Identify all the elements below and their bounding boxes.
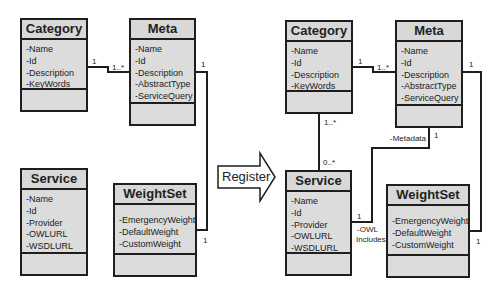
attribute: -Name [401,46,461,58]
multiplicity-label: 1 [358,57,362,66]
attribute: -Id [26,56,86,68]
attribute: -EmergencyWeight [392,216,468,228]
attribute: -Name [135,44,194,56]
class-attributes: -EmergencyWeight -DefaultWeight -CustomW… [115,205,195,255]
class-title: Meta [131,20,194,40]
attribute: -KeyWords [291,81,351,93]
class-operations [287,256,350,274]
attribute: -Name [26,194,86,206]
multiplicity-label: 1 [476,237,480,246]
class-operations [397,108,461,126]
class-attributes: -Name -Id -Description -AbstractType -Se… [131,40,194,104]
class-operations [388,258,468,276]
class-attributes: -Name -Id -Provider -OWLURL -WSDLURL [287,192,350,254]
register-arrow-label: Register [222,169,270,185]
attribute: -Provider [26,218,86,230]
class-operations [287,94,351,112]
class-service-right: Service -Name -Id -Provider -OWLURL -WSD… [285,170,352,276]
class-title: Service [287,172,350,192]
attribute: -Name [26,44,86,56]
class-attributes: -Name -Id -Description -KeyWords [22,40,86,90]
class-operations [22,256,86,274]
class-title: Service [22,170,86,190]
attribute: -Id [135,56,194,68]
multiplicity-label: 0..* [323,158,335,167]
class-title: WeightSet [115,185,195,205]
attribute: -Name [291,46,351,58]
attribute: -Description [401,70,461,82]
attribute: -Id [401,58,461,70]
attribute: -KeyWords [26,79,86,91]
class-category-left: Category -Name -Id -Description -KeyWord… [20,18,88,112]
attribute: -ServiceQuery [401,93,461,105]
class-operations [22,92,86,110]
attribute: -Provider [291,220,350,232]
class-attributes: -Name -Id -Description -KeyWords [287,42,351,92]
diagram-canvas: Category -Name -Id -Description -KeyWord… [0,0,502,289]
multiplicity-label: 1..* [377,63,389,72]
multiplicity-label: 1 [469,60,473,69]
attribute: -Description [291,70,351,82]
multiplicity-label: 1 [434,131,438,140]
attribute: -CustomWeight [392,240,468,252]
class-operations [115,257,195,275]
multiplicity-label: 1 [201,60,205,69]
attribute: -Id [291,58,351,70]
role-label: Includes [356,235,386,244]
attribute: -OWLURL [26,229,86,241]
class-meta-left: Meta -Name -Id -Description -AbstractTyp… [129,18,196,126]
attribute: -WSDLURL [26,241,86,253]
attribute: -DefaultWeight [119,227,195,239]
multiplicity-label: 1 [203,236,207,245]
attribute: -EmergencyWeight [119,215,195,227]
class-meta-right: Meta -Name -Id -Description -AbstractTyp… [395,20,463,128]
attribute: -AbstractType [135,79,194,91]
attribute: -Name [291,196,350,208]
multiplicity-label: 1..* [112,63,124,72]
attribute: -AbstractType [401,81,461,93]
attribute: -Description [26,68,86,80]
class-title: Category [22,20,86,40]
class-weightset-right: WeightSet -EmergencyWeight -DefaultWeigh… [386,184,470,278]
role-label: -Metadata [390,134,426,143]
attribute: -ServiceQuery [135,91,194,103]
class-weightset-left: WeightSet -EmergencyWeight -DefaultWeigh… [113,183,197,277]
class-attributes: -Name -Id -Provider -OWLURL -WSDLURL [22,190,86,254]
role-label: -OWL [357,225,378,234]
class-title: Meta [397,22,461,42]
class-operations [131,106,194,124]
attribute: -Id [291,208,350,220]
class-title: WeightSet [388,186,468,206]
class-attributes: -Name -Id -Description -AbstractType -Se… [397,42,461,106]
attribute: -OWLURL [291,231,350,243]
class-service-left: Service -Name -Id -Provider -OWLURL -WSD… [20,168,88,276]
attribute: -WSDLURL [291,243,350,255]
class-title: Category [287,22,351,42]
attribute: -CustomWeight [119,239,195,251]
attribute: -Description [135,68,194,80]
assoc-meta-weightset-left [196,72,207,230]
class-attributes: -EmergencyWeight -DefaultWeight -CustomW… [388,206,468,256]
class-category-right: Category -Name -Id -Description -KeyWord… [285,20,353,114]
attribute: -Id [26,206,86,218]
attribute: -DefaultWeight [392,228,468,240]
multiplicity-label: 1 [357,212,361,221]
multiplicity-label: 1 [92,57,96,66]
multiplicity-label: 1..* [324,118,336,127]
